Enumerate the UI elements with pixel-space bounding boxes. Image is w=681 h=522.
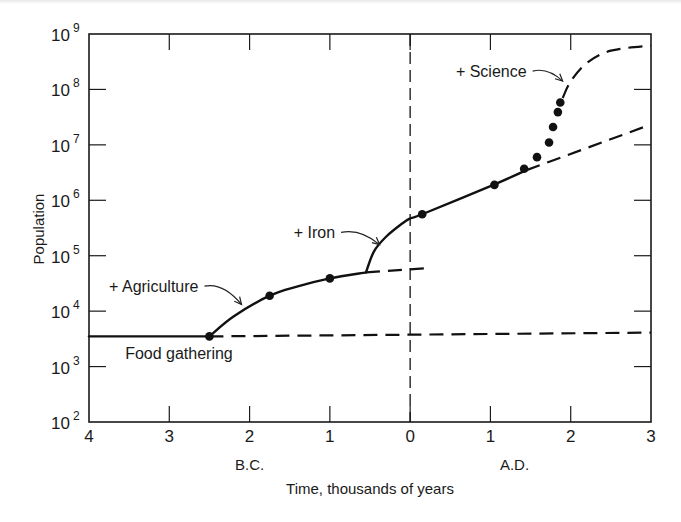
x-tick-label: 2 [566,427,575,446]
era-label: B.C. [235,456,264,473]
population-chart: 102103104105106107108109 43210123 + Agri… [0,0,681,522]
data-point [490,181,499,190]
science-projected-curve [563,46,651,99]
annotation-iron: + Iron [294,224,335,241]
y-tick-labels: 102103104105106107108109 [51,21,80,433]
agriculture-projected-curve [366,268,430,272]
y-tick-label: 103 [51,354,80,378]
data-points [205,98,564,340]
x-tick-label: 2 [245,427,254,446]
y-tick-label: 107 [51,132,80,156]
x-tick-label: 3 [646,427,655,446]
x-tick-label: 0 [405,427,414,446]
annotation-food-gathering: Food gathering [125,345,233,362]
iron-projected-curve [527,126,647,170]
x-tick-label: 1 [325,427,334,446]
data-point [418,210,427,219]
x-tick-label: 1 [486,427,495,446]
data-point [556,98,565,107]
agriculture-curve [209,272,366,336]
plot-border [89,34,651,422]
plot-frame [89,34,651,422]
data-point [549,123,558,132]
annotation-agriculture: + Agriculture [109,278,198,295]
y-tick-label: 102 [51,409,80,433]
food-gathering-projected-curve [209,333,651,337]
x-axis-title: Time, thousands of years [286,480,454,497]
y-tick-label: 104 [51,298,80,322]
x-tick-labels: 43210123 [84,427,655,446]
x-tick-label: 3 [165,427,174,446]
iron-curve [366,170,527,272]
y-tick-label: 109 [51,21,80,45]
data-point [533,153,542,162]
data-point [326,274,335,283]
y-tick-label: 105 [51,243,80,267]
y-tick-label: 108 [51,76,80,100]
axis-ticks [89,34,651,422]
y-tick-label: 106 [51,187,80,211]
data-point [520,164,529,173]
data-point [554,108,563,117]
x-tick-label: 4 [84,427,93,446]
data-point [545,138,554,147]
era-labels: B.C.A.D. [235,456,529,473]
era-label: A.D. [500,456,529,473]
annotation-science: + Science [456,63,527,80]
data-point [205,332,214,341]
data-point [265,291,274,300]
annotations: + Agriculture+ Iron+ ScienceFood gatheri… [109,63,563,362]
y-axis-title: Population [30,194,47,265]
